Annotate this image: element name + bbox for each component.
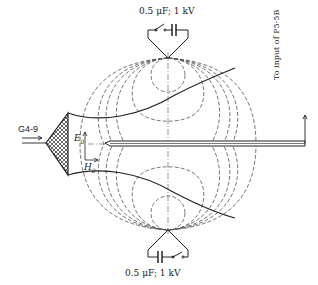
output-arrow [303,115,307,143]
source-label: G4-9 [18,124,38,134]
top-capacitor-label: 0.5 μF; 1 kV [139,6,194,16]
field-vector-axes [83,132,98,162]
h-field-label: H0 [84,162,96,174]
h-field-sub: 0 [92,167,96,174]
output-label: To input of P5-5B [272,10,281,80]
bottom-capacitor-label: 0.5 μF; 1 kV [125,268,180,278]
diagram-canvas [0,0,318,285]
e-field-label: E0 [74,133,84,145]
e-field-symbol: E [74,133,81,143]
e-field-sub: 0 [81,138,85,145]
source-arrows [22,136,46,143]
bottom-circuit [148,230,188,263]
probe [105,141,305,146]
h-field-symbol: H [84,162,92,172]
